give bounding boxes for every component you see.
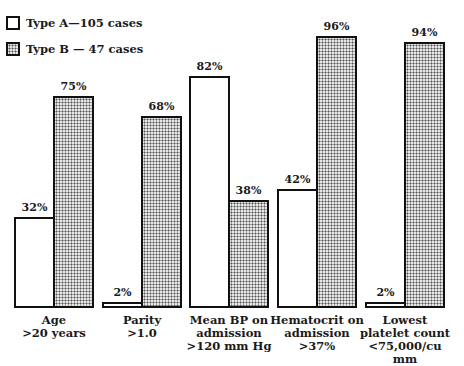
- value-label-type-b: 38%: [229, 184, 269, 197]
- value-label-type-b: 96%: [317, 20, 357, 33]
- bar-type-b: [141, 116, 182, 308]
- category-label: Lowestplatelet count<75,000/cu mm: [355, 314, 455, 366]
- bar-type-b: [404, 42, 445, 308]
- bar-type-a: [365, 302, 406, 308]
- bar-type-b: [316, 36, 357, 308]
- bar-type-b: [228, 200, 269, 308]
- category-label: Parity>1.0: [92, 314, 192, 340]
- bar-type-a: [189, 76, 230, 308]
- category-label: Mean BP onadmission>120 mm Hg: [179, 314, 279, 353]
- value-label-type-a: 42%: [278, 173, 318, 186]
- legend-label: Type A—105 cases: [26, 16, 143, 30]
- value-label-type-a: 82%: [190, 60, 230, 73]
- value-label-type-b: 75%: [54, 80, 94, 93]
- bar-type-b: [53, 96, 94, 308]
- value-label-type-b: 94%: [405, 26, 445, 39]
- legend-item-type-b: Type B — 47 cases: [6, 36, 143, 62]
- chart-legend: Type A—105 cases Type B — 47 cases: [6, 10, 143, 62]
- value-label-type-b: 68%: [142, 100, 182, 113]
- legend-item-type-a: Type A—105 cases: [6, 10, 143, 36]
- legend-swatch-plain-icon: [6, 16, 20, 30]
- value-label-type-a: 2%: [103, 286, 143, 299]
- bar-type-a: [277, 189, 318, 308]
- category-label: Age>20 years: [4, 314, 104, 340]
- category-label: Hematocrit onadmission>37%: [267, 314, 367, 353]
- legend-label: Type B — 47 cases: [26, 42, 143, 56]
- value-label-type-a: 2%: [366, 286, 406, 299]
- bar-type-a: [102, 302, 143, 308]
- legend-swatch-dotted-icon: [6, 42, 20, 56]
- bar-type-a: [14, 217, 55, 308]
- value-label-type-a: 32%: [15, 201, 55, 214]
